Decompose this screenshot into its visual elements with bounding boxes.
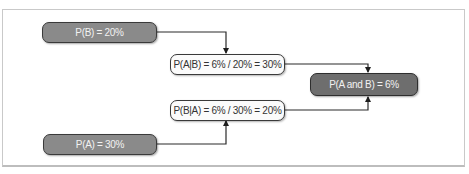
edge-pa-to-pbgivena [156, 121, 226, 144]
node-p-b-given-a: P(B|A) = 6% / 30% = 20% [170, 100, 285, 121]
node-label: P(B) = 20% [75, 27, 123, 38]
node-p-a-given-b: P(A|B) = 6% / 20% = 30% [170, 54, 285, 75]
node-label: P(A and B) = 6% [329, 79, 399, 90]
node-p-a: P(A) = 30% [43, 134, 157, 155]
node-p-a-and-b: P(A and B) = 6% [310, 73, 418, 96]
node-label: P(A|B) = 6% / 20% = 30% [174, 59, 282, 70]
node-label: P(A) = 30% [76, 139, 124, 150]
node-label: P(B|A) = 6% / 30% = 20% [174, 105, 282, 116]
edge-pb-to-pagivenb [156, 32, 226, 53]
node-p-b: P(B) = 20% [42, 22, 157, 43]
edge-pagivenb-to-paandb [284, 64, 368, 72]
edge-pbgivena-to-paandb [284, 97, 368, 110]
